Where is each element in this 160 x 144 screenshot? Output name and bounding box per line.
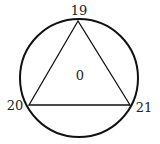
diagram-canvas: 19 20 21 0	[0, 0, 160, 144]
vertex-label-top: 19	[71, 3, 88, 18]
inscribed-triangle	[29, 21, 130, 105]
circle-triangle-diagram: 19 20 21 0	[0, 0, 160, 144]
vertex-label-right: 21	[136, 100, 153, 115]
center-label: 0	[76, 68, 84, 83]
vertex-label-left: 20	[7, 98, 24, 113]
